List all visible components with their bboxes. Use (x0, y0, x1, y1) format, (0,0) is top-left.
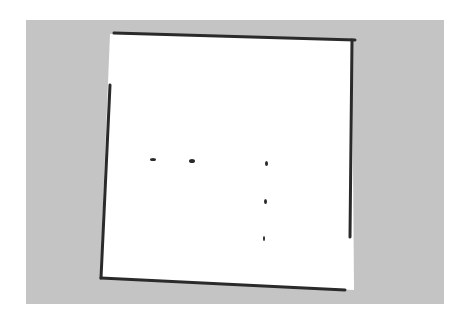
obstacle-4 (264, 199, 267, 204)
obstacle-5 (263, 236, 265, 241)
map-canvas (0, 0, 468, 333)
obstacle-1 (150, 158, 156, 161)
obstacle-3 (265, 161, 268, 166)
obstacle-2 (189, 159, 195, 163)
right-wall (350, 40, 352, 237)
free-space (100, 34, 354, 290)
occupancy-map (0, 0, 468, 333)
